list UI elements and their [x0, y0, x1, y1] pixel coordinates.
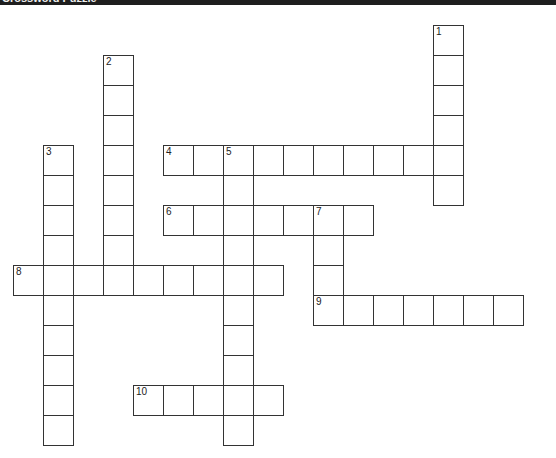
crossword-cell[interactable]: [373, 295, 404, 326]
crossword-cell[interactable]: [343, 145, 374, 176]
crossword-cell[interactable]: [343, 205, 374, 236]
crossword-cell[interactable]: 2: [103, 55, 134, 86]
crossword-cell[interactable]: [433, 145, 464, 176]
crossword-cell[interactable]: [223, 205, 254, 236]
clue-number: 2: [106, 57, 112, 67]
crossword-cell[interactable]: [433, 175, 464, 206]
crossword-cell[interactable]: [313, 265, 344, 296]
crossword-cell[interactable]: [223, 295, 254, 326]
crossword-cell[interactable]: [403, 145, 434, 176]
clue-number: 10: [136, 387, 147, 397]
crossword-cell[interactable]: [103, 205, 134, 236]
crossword-cell[interactable]: [223, 385, 254, 416]
crossword-cell[interactable]: [253, 265, 284, 296]
crossword-cell[interactable]: [253, 205, 284, 236]
crossword-cell[interactable]: [253, 385, 284, 416]
crossword-cell[interactable]: 5: [223, 145, 254, 176]
crossword-cell[interactable]: 9: [313, 295, 344, 326]
clue-number: 1: [436, 27, 442, 37]
crossword-cell[interactable]: [43, 325, 74, 356]
crossword-cell[interactable]: [193, 205, 224, 236]
crossword-cell[interactable]: [343, 295, 374, 326]
crossword-cell[interactable]: 1: [433, 25, 464, 56]
crossword-cell[interactable]: [193, 145, 224, 176]
crossword-cell[interactable]: [103, 115, 134, 146]
crossword-cell[interactable]: [373, 145, 404, 176]
crossword-cell[interactable]: [43, 235, 74, 266]
crossword-cell[interactable]: [193, 265, 224, 296]
crossword-cell[interactable]: [403, 295, 434, 326]
crossword-cell[interactable]: [103, 235, 134, 266]
crossword-cell[interactable]: 6: [163, 205, 194, 236]
crossword-cell[interactable]: 10: [133, 385, 164, 416]
clue-number: 7: [316, 207, 322, 217]
crossword-cell[interactable]: [163, 265, 194, 296]
crossword-cell[interactable]: [223, 235, 254, 266]
crossword-cell[interactable]: [43, 295, 74, 326]
crossword-cell[interactable]: [223, 265, 254, 296]
crossword-cell[interactable]: [313, 235, 344, 266]
crossword-cell[interactable]: [223, 415, 254, 446]
crossword-cell[interactable]: [103, 85, 134, 116]
crossword-cell[interactable]: 7: [313, 205, 344, 236]
crossword-cell[interactable]: [43, 265, 74, 296]
crossword-cell[interactable]: 8: [13, 265, 44, 296]
crossword-cell[interactable]: [43, 175, 74, 206]
crossword-grid: 12345679810: [0, 0, 556, 458]
crossword-cell[interactable]: [193, 385, 224, 416]
clue-number: 9: [316, 297, 322, 307]
crossword-cell[interactable]: [253, 145, 284, 176]
crossword-cell[interactable]: [283, 145, 314, 176]
crossword-cell[interactable]: [223, 175, 254, 206]
clue-number: 6: [166, 207, 172, 217]
crossword-cell[interactable]: [463, 295, 494, 326]
crossword-cell[interactable]: [133, 265, 164, 296]
crossword-cell[interactable]: [433, 295, 464, 326]
crossword-cell[interactable]: [43, 415, 74, 446]
crossword-cell[interactable]: [283, 205, 314, 236]
crossword-cell[interactable]: [223, 355, 254, 386]
crossword-cell[interactable]: [103, 175, 134, 206]
crossword-cell[interactable]: [103, 265, 134, 296]
crossword-cell[interactable]: [433, 115, 464, 146]
crossword-cell[interactable]: [433, 55, 464, 86]
crossword-cell[interactable]: [163, 385, 194, 416]
clue-number: 3: [46, 147, 52, 157]
clue-number: 8: [16, 267, 22, 277]
crossword-cell[interactable]: [223, 325, 254, 356]
crossword-cell[interactable]: [73, 265, 104, 296]
crossword-cell[interactable]: [433, 85, 464, 116]
crossword-cell[interactable]: [103, 145, 134, 176]
crossword-cell[interactable]: 3: [43, 145, 74, 176]
crossword-cell[interactable]: [43, 205, 74, 236]
crossword-cell[interactable]: 4: [163, 145, 194, 176]
clue-number: 4: [166, 147, 172, 157]
clue-number: 5: [226, 147, 232, 157]
crossword-cell[interactable]: [493, 295, 524, 326]
crossword-cell[interactable]: [313, 145, 344, 176]
crossword-cell[interactable]: [43, 355, 74, 386]
crossword-cell[interactable]: [43, 385, 74, 416]
